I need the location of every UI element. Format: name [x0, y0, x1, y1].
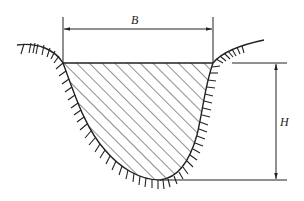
width-label: B — [131, 14, 138, 26]
channel-cross-section-diagram: B H — [0, 0, 304, 201]
diagram-drawing — [0, 0, 304, 201]
depth-label: H — [280, 116, 289, 128]
